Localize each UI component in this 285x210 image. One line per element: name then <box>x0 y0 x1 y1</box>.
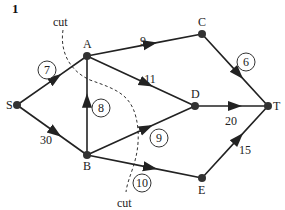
node-label-B: B <box>83 159 91 173</box>
edge-label-B-D: 9 <box>150 129 168 147</box>
svg-text:6: 6 <box>243 55 249 69</box>
node-T <box>264 102 272 110</box>
node-label-A: A <box>83 37 92 51</box>
edges <box>17 34 268 178</box>
edge-S-B <box>17 105 87 155</box>
svg-text:10: 10 <box>136 176 148 190</box>
edge-label-S-A: 7 <box>38 61 56 79</box>
node-S <box>13 101 21 109</box>
edge-C-T <box>202 34 268 106</box>
cut-label-bottom: cut <box>117 196 132 210</box>
edge-A-D <box>87 56 195 106</box>
cut-label-top: cut <box>53 15 68 29</box>
svg-text:30: 30 <box>40 133 52 147</box>
node-E <box>198 174 206 182</box>
edge-label-C-T: 6 <box>237 53 255 71</box>
svg-text:7: 7 <box>44 63 50 77</box>
edge-label-E-T: 15 <box>239 143 251 157</box>
edge-label-B-E: 10 <box>133 174 151 192</box>
svg-text:9: 9 <box>140 34 146 48</box>
node-label-S: S <box>6 98 13 112</box>
svg-text:11: 11 <box>144 72 156 86</box>
svg-text:15: 15 <box>239 143 251 157</box>
labels: 730891191062015 <box>38 34 255 192</box>
edge-label-S-B: 30 <box>40 133 52 147</box>
edge-label-B-A: 8 <box>92 99 110 117</box>
node-D <box>191 102 199 110</box>
node-A <box>83 52 91 60</box>
node-C <box>198 30 206 38</box>
edge-label-D-T: 20 <box>225 114 237 128</box>
node-B <box>83 151 91 159</box>
node-label-D: D <box>191 87 200 101</box>
node-label-E: E <box>198 183 205 197</box>
svg-text:9: 9 <box>156 131 162 145</box>
svg-text:8: 8 <box>98 101 104 115</box>
network-flow-diagram: cutcut SABCDTE 730891191062015 <box>0 0 285 210</box>
node-label-T: T <box>273 99 281 113</box>
svg-text:20: 20 <box>225 114 237 128</box>
edge-label-A-C: 9 <box>140 34 146 48</box>
edge-label-A-D: 11 <box>144 72 156 86</box>
node-label-C: C <box>198 15 206 29</box>
